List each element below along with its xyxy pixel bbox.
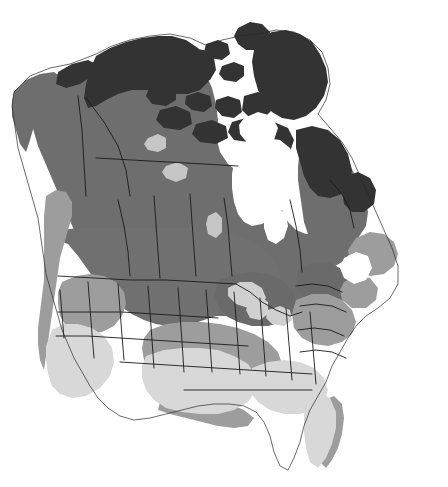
lake-winnipeg (206, 212, 222, 238)
map-figure: Frost Zones (0, 0, 448, 487)
north-america-frost-zone-map (0, 0, 448, 487)
